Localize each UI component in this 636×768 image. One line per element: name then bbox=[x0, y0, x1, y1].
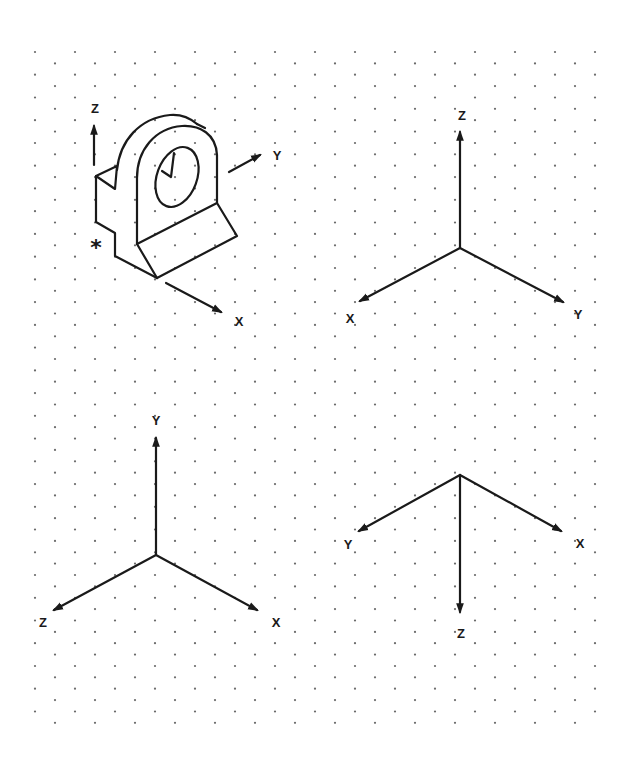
grid-dot bbox=[594, 347, 596, 349]
grid-dot bbox=[34, 96, 36, 98]
grid-dot bbox=[334, 563, 336, 565]
grid-dot bbox=[114, 392, 116, 394]
grid-dot bbox=[594, 574, 596, 576]
grid-dot bbox=[134, 585, 136, 587]
grid-dot bbox=[414, 699, 416, 701]
grid-dot bbox=[534, 62, 536, 64]
grid-dot bbox=[494, 312, 496, 314]
axes-z-down-figure: Z Y X bbox=[344, 475, 585, 641]
grid-dot bbox=[594, 506, 596, 508]
grid-dot bbox=[434, 483, 436, 485]
grid-dot bbox=[374, 199, 376, 201]
grid-dot bbox=[314, 392, 316, 394]
grid-dot bbox=[34, 551, 36, 553]
grid-dot bbox=[354, 506, 356, 508]
grid-dot bbox=[434, 256, 436, 258]
grid-dot bbox=[234, 392, 236, 394]
grid-dot bbox=[534, 449, 536, 451]
grid-dot bbox=[294, 699, 296, 701]
grid-dot bbox=[34, 278, 36, 280]
grid-dot bbox=[294, 358, 296, 360]
grid-dot bbox=[134, 153, 136, 155]
grid-dot bbox=[34, 392, 36, 394]
grid-dot bbox=[454, 381, 456, 383]
grid-dot bbox=[334, 494, 336, 496]
grid-dot bbox=[574, 517, 576, 519]
grid-dot bbox=[334, 199, 336, 201]
grid-dot bbox=[54, 722, 56, 724]
grid-dot bbox=[294, 472, 296, 474]
grid-dot bbox=[354, 642, 356, 644]
grid-dot bbox=[474, 51, 476, 53]
grid-dot bbox=[274, 165, 276, 167]
grid-dot bbox=[334, 585, 336, 587]
grid-dot bbox=[454, 676, 456, 678]
grid-dot bbox=[454, 335, 456, 337]
grid-dot bbox=[414, 472, 416, 474]
grid-dot bbox=[114, 119, 116, 121]
grid-dot bbox=[134, 199, 136, 201]
grid-dot bbox=[534, 358, 536, 360]
x-axis-label: X bbox=[272, 615, 281, 630]
grid-dot bbox=[294, 449, 296, 451]
grid-dot bbox=[54, 312, 56, 314]
grid-dot bbox=[334, 403, 336, 405]
grid-dot bbox=[234, 96, 236, 98]
grid-dot bbox=[474, 551, 476, 553]
grid-dot bbox=[174, 472, 176, 474]
grid-dot bbox=[94, 335, 96, 337]
grid-dot bbox=[454, 449, 456, 451]
grid-dot bbox=[134, 676, 136, 678]
grid-dot bbox=[434, 688, 436, 690]
grid-dot bbox=[474, 187, 476, 189]
grid-dot bbox=[234, 665, 236, 667]
grid-dot bbox=[34, 165, 36, 167]
grid-dot bbox=[314, 710, 316, 712]
grid-dot bbox=[454, 290, 456, 292]
grid-dot bbox=[434, 438, 436, 440]
grid-dot bbox=[434, 665, 436, 667]
grid-dot bbox=[314, 619, 316, 621]
grid-dot bbox=[454, 722, 456, 724]
grid-dot bbox=[434, 210, 436, 212]
grid-dot bbox=[174, 176, 176, 178]
grid-dot bbox=[254, 199, 256, 201]
grid-dot bbox=[474, 369, 476, 371]
grid-dot bbox=[334, 335, 336, 337]
grid-dot bbox=[354, 233, 356, 235]
grid-dot bbox=[494, 676, 496, 678]
grid-dot bbox=[74, 278, 76, 280]
grid-dot bbox=[214, 472, 216, 474]
grid-dot bbox=[494, 290, 496, 292]
grid-dot bbox=[394, 301, 396, 303]
grid-dot bbox=[214, 131, 216, 133]
grid-dot bbox=[574, 494, 576, 496]
grid-dot bbox=[574, 290, 576, 292]
grid-dot bbox=[74, 51, 76, 53]
grid-dot bbox=[534, 176, 536, 178]
grid-dot bbox=[194, 142, 196, 144]
grid-dot bbox=[74, 688, 76, 690]
grid-dot bbox=[474, 665, 476, 667]
grid-dot bbox=[554, 210, 556, 212]
grid-dot bbox=[94, 312, 96, 314]
grid-dot bbox=[34, 460, 36, 462]
grid-dot bbox=[554, 665, 556, 667]
grid-dot bbox=[574, 131, 576, 133]
grid-dot bbox=[454, 312, 456, 314]
axes-z-up-figure: Z X Y bbox=[346, 108, 583, 326]
grid-dot bbox=[54, 62, 56, 64]
grid-dot bbox=[594, 324, 596, 326]
grid-dot bbox=[534, 608, 536, 610]
grid-dot bbox=[294, 381, 296, 383]
grid-dot bbox=[514, 96, 516, 98]
grid-dot bbox=[514, 278, 516, 280]
y-axis-label: Y bbox=[273, 148, 282, 163]
grid-dot bbox=[434, 142, 436, 144]
grid-dot bbox=[274, 438, 276, 440]
grid-dot bbox=[394, 369, 396, 371]
grid-dot bbox=[154, 165, 156, 167]
grid-dot bbox=[54, 335, 56, 337]
grid-dot bbox=[234, 483, 236, 485]
grid-dot bbox=[554, 51, 556, 53]
